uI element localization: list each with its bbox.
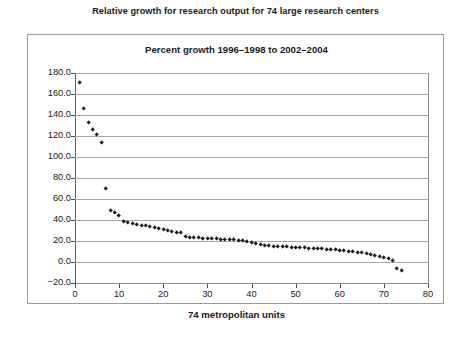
x-axis-tick-label: 60 [325, 289, 355, 299]
y-axis-tick-label: 160.0 [27, 88, 71, 98]
x-tick-mark [384, 284, 385, 288]
gridline-y [75, 199, 428, 200]
plot-border-right [428, 73, 429, 284]
y-axis-tick-label: 40.0 [27, 214, 71, 224]
x-axis-tick-label: 10 [104, 289, 134, 299]
x-axis-tick-label: 20 [148, 289, 178, 299]
y-tick-mark [71, 262, 75, 263]
y-tick-mark [71, 136, 75, 137]
gridline-y [75, 115, 428, 116]
x-axis-tick-label: 80 [413, 289, 443, 299]
x-tick-mark [163, 284, 164, 288]
data-point [77, 80, 82, 85]
data-point [179, 231, 184, 236]
x-tick-mark [252, 284, 253, 288]
y-axis-tick-label: 100.0 [27, 151, 71, 161]
data-point [81, 106, 86, 111]
data-point [134, 222, 139, 227]
y-axis-tick-label: 120.0 [27, 130, 71, 140]
gridline-y [75, 73, 428, 74]
y-tick-mark [71, 94, 75, 95]
data-point [156, 226, 161, 231]
x-axis-labels: 01020304050607080 [75, 289, 430, 303]
y-axis-tick-label: −20.0 [27, 277, 71, 287]
y-axis-tick-label: 180.0 [27, 67, 71, 77]
x-tick-mark [296, 284, 297, 288]
data-point [86, 120, 91, 125]
chart-frame: Percent growth 1996–1998 to 2002–2004 −2… [27, 34, 444, 304]
data-point [399, 269, 404, 274]
plot-area [75, 73, 428, 284]
data-point [103, 186, 108, 191]
data-point [99, 140, 104, 145]
gridline-y [75, 136, 428, 137]
y-tick-mark [71, 199, 75, 200]
y-axis-tick-label: 80.0 [27, 172, 71, 182]
x-axis-tick-label: 40 [237, 289, 267, 299]
figure-page: Relative growth for research output for … [0, 0, 471, 339]
y-axis-labels: −20.00.020.040.060.080.0100.0120.0140.01… [25, 73, 71, 284]
x-tick-mark [119, 284, 120, 288]
y-axis-tick-label: 140.0 [27, 109, 71, 119]
y-tick-mark [71, 241, 75, 242]
x-axis-tick-label: 0 [60, 289, 90, 299]
y-tick-mark [71, 115, 75, 116]
x-axis-tick-label: 50 [281, 289, 311, 299]
gridline-y [75, 178, 428, 179]
gridline-y [75, 94, 428, 95]
y-tick-mark [71, 178, 75, 179]
x-tick-mark [428, 284, 429, 288]
x-axis-tick-label: 30 [192, 289, 222, 299]
figure-caption: Relative growth for research output for … [0, 6, 471, 16]
y-tick-mark [71, 157, 75, 158]
y-axis-tick-label: 20.0 [27, 235, 71, 245]
chart-title: Percent growth 1996–1998 to 2002–2004 [28, 44, 445, 55]
gridline-y [75, 157, 428, 158]
gridline-y [75, 262, 428, 263]
y-tick-mark [71, 73, 75, 74]
x-axis-tick-label: 70 [369, 289, 399, 299]
data-point [117, 213, 122, 218]
x-tick-mark [207, 284, 208, 288]
x-axis-title: 74 metropolitan units [28, 309, 445, 320]
y-axis-tick-label: 60.0 [27, 193, 71, 203]
y-tick-mark [71, 220, 75, 221]
x-tick-mark [75, 284, 76, 288]
data-point [90, 127, 95, 132]
y-axis-tick-label: 0.0 [27, 256, 71, 266]
x-tick-mark [340, 284, 341, 288]
